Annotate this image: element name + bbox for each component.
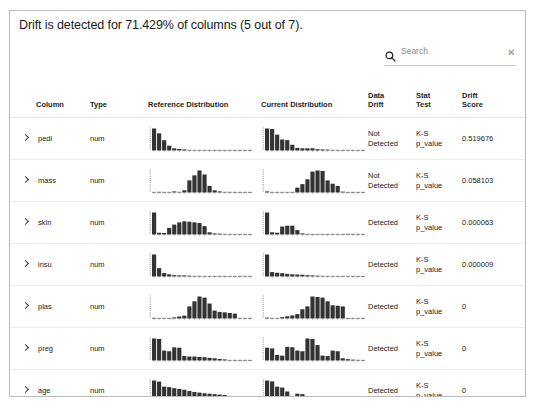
current-histogram: age current distribution bbox=[261, 378, 365, 398]
current-distribution-cell: preg current distribution bbox=[255, 328, 368, 370]
table-row[interactable]: plasnumplas reference distributionplas c… bbox=[10, 286, 525, 328]
current-histogram: preg current distribution bbox=[261, 336, 365, 362]
data-drift-cell: Detected bbox=[368, 370, 416, 398]
reference-histogram: age reference distribution bbox=[148, 378, 252, 398]
data-drift-cell: NotDetected bbox=[368, 160, 416, 202]
th-drift-score-line2: Score bbox=[462, 100, 483, 109]
table-header-row: Column Type Reference Distribution Curre… bbox=[10, 73, 525, 118]
column-type-cell: num bbox=[90, 118, 142, 160]
search-icon bbox=[385, 48, 396, 59]
drift-table-panel: Drift is detected for 71.429% of columns… bbox=[9, 10, 526, 397]
column-type-cell: num bbox=[90, 370, 142, 398]
column-name-cell: skin bbox=[36, 202, 90, 244]
chevron-right-icon[interactable] bbox=[22, 386, 31, 395]
column-type-cell: num bbox=[90, 160, 142, 202]
th-drift-score: Drift Score bbox=[462, 73, 525, 118]
expand-cell[interactable] bbox=[10, 160, 36, 202]
drift-score-cell: 0.519676 bbox=[462, 118, 525, 160]
reference-histogram: preg reference distribution bbox=[148, 336, 252, 362]
clear-search-icon[interactable]: ✕ bbox=[507, 47, 515, 59]
reference-histogram: mass reference distribution bbox=[148, 168, 252, 194]
current-histogram: mass current distribution bbox=[261, 168, 365, 194]
table-row[interactable]: massnummass reference distributionmass c… bbox=[10, 160, 525, 202]
table-body: pedinumpedi reference distributionpedi c… bbox=[10, 118, 525, 398]
stat-test-cell: K-Sp_value bbox=[416, 160, 462, 202]
current-distribution-cell: insu current distribution bbox=[255, 244, 368, 286]
table-row[interactable]: pregnumpreg reference distributionpreg c… bbox=[10, 328, 525, 370]
current-distribution-cell: pedi current distribution bbox=[255, 118, 368, 160]
column-name-cell: pedi bbox=[36, 118, 90, 160]
table-row[interactable]: skinnumskin reference distributionskin c… bbox=[10, 202, 525, 244]
current-histogram: insu current distribution bbox=[261, 252, 365, 278]
th-column: Column bbox=[36, 73, 90, 118]
stat-test-cell: K-Sp_value bbox=[416, 118, 462, 160]
reference-distribution-cell: preg reference distribution bbox=[142, 328, 255, 370]
expand-cell[interactable] bbox=[10, 370, 36, 398]
search-input[interactable] bbox=[401, 46, 496, 56]
expand-cell[interactable] bbox=[10, 202, 36, 244]
search-box[interactable]: ✕ bbox=[384, 45, 516, 66]
column-name-cell: preg bbox=[36, 328, 90, 370]
column-name-cell: mass bbox=[36, 160, 90, 202]
expand-cell[interactable] bbox=[10, 286, 36, 328]
chevron-right-icon[interactable] bbox=[22, 176, 31, 185]
column-name-cell: insu bbox=[36, 244, 90, 286]
reference-distribution-cell: insu reference distribution bbox=[142, 244, 255, 286]
reference-distribution-cell: mass reference distribution bbox=[142, 160, 255, 202]
th-stat-test-line1: Stat bbox=[416, 91, 430, 100]
drift-score-cell: 0 bbox=[462, 286, 525, 328]
th-data-drift-line2: Drift bbox=[368, 100, 383, 109]
reference-histogram: skin reference distribution bbox=[148, 210, 252, 236]
chevron-right-icon[interactable] bbox=[22, 344, 31, 353]
current-histogram: skin current distribution bbox=[261, 210, 365, 236]
column-type-cell: num bbox=[90, 328, 142, 370]
column-type-cell: num bbox=[90, 202, 142, 244]
current-distribution-cell: mass current distribution bbox=[255, 160, 368, 202]
th-current-distribution: Current Distribution bbox=[255, 73, 368, 118]
stat-test-cell: K-Sp_value bbox=[416, 370, 462, 398]
table-row[interactable]: agenumage reference distributionage curr… bbox=[10, 370, 525, 398]
column-type-cell: num bbox=[90, 244, 142, 286]
data-drift-cell: Detected bbox=[368, 328, 416, 370]
reference-histogram: insu reference distribution bbox=[148, 252, 252, 278]
data-drift-cell: Detected bbox=[368, 202, 416, 244]
table-header: Column Type Reference Distribution Curre… bbox=[10, 73, 525, 118]
current-distribution-cell: plas current distribution bbox=[255, 286, 368, 328]
reference-histogram: pedi reference distribution bbox=[148, 126, 252, 152]
current-distribution-cell: skin current distribution bbox=[255, 202, 368, 244]
drift-summary-title: Drift is detected for 71.429% of columns… bbox=[19, 18, 303, 32]
expand-cell[interactable] bbox=[10, 244, 36, 286]
reference-distribution-cell: pedi reference distribution bbox=[142, 118, 255, 160]
drift-score-cell: 0.058103 bbox=[462, 160, 525, 202]
drift-score-cell: 0.000063 bbox=[462, 202, 525, 244]
stat-test-cell: K-Sp_value bbox=[416, 328, 462, 370]
reference-distribution-cell: age reference distribution bbox=[142, 370, 255, 398]
expand-cell[interactable] bbox=[10, 328, 36, 370]
stat-test-cell: K-Sp_value bbox=[416, 202, 462, 244]
drift-score-cell: 0 bbox=[462, 328, 525, 370]
drift-report-root: Drift is detected for 71.429% of columns… bbox=[0, 0, 537, 415]
expand-cell[interactable] bbox=[10, 118, 36, 160]
table-row[interactable]: insunuminsu reference distributioninsu c… bbox=[10, 244, 525, 286]
current-distribution-cell: age current distribution bbox=[255, 370, 368, 398]
th-type: Type bbox=[90, 73, 142, 118]
th-stat-test: Stat Test bbox=[416, 73, 462, 118]
th-data-drift: Data Drift bbox=[368, 73, 416, 118]
th-drift-score-line1: Drift bbox=[462, 91, 477, 100]
th-stat-test-line2: Test bbox=[416, 100, 431, 109]
column-name-cell: age bbox=[36, 370, 90, 398]
table-row[interactable]: pedinumpedi reference distributionpedi c… bbox=[10, 118, 525, 160]
drift-score-cell: 0 bbox=[462, 370, 525, 398]
chevron-right-icon[interactable] bbox=[22, 260, 31, 269]
column-name-cell: plas bbox=[36, 286, 90, 328]
reference-distribution-cell: skin reference distribution bbox=[142, 202, 255, 244]
th-data-drift-line1: Data bbox=[368, 91, 384, 100]
data-drift-cell: Detected bbox=[368, 244, 416, 286]
current-histogram: plas current distribution bbox=[261, 294, 365, 320]
data-drift-cell: Detected bbox=[368, 286, 416, 328]
chevron-right-icon[interactable] bbox=[22, 302, 31, 311]
chevron-right-icon[interactable] bbox=[22, 134, 31, 143]
stat-test-cell: K-Sp_value bbox=[416, 244, 462, 286]
chevron-right-icon[interactable] bbox=[22, 218, 31, 227]
reference-histogram: plas reference distribution bbox=[148, 294, 252, 320]
